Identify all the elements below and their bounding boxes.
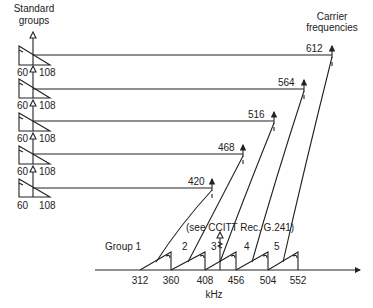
pilot-arrow-icon [30, 100, 36, 106]
group-label-1: Group 1 [105, 241, 142, 252]
pilot-arrow-icon [30, 133, 36, 139]
carrier-516: 516 [248, 109, 265, 120]
group-label-5: 5 [274, 241, 280, 252]
carrier-612: 612 [306, 43, 323, 54]
standard-group-row-2: 564 60 108 [17, 66, 304, 111]
pilot-arrow-icon [30, 166, 36, 172]
group-low-freq: 60 [17, 200, 29, 211]
group-label-4: 4 [244, 241, 250, 252]
tick-360: 360 [163, 275, 180, 286]
carrier-564: 564 [278, 77, 295, 88]
tick-504: 504 [260, 275, 277, 286]
group-high-freq: 108 [39, 200, 56, 211]
axis-unit-label: kHz [205, 289, 222, 300]
standard-groups-title-2: groups [19, 15, 50, 26]
diagram-svg: Standard groups Carrier frequencies 612 … [0, 0, 373, 308]
carrier-title-2: frequencies [306, 22, 358, 33]
group-low-freq: 60 [17, 100, 29, 111]
group-label-3: 3 [211, 241, 217, 252]
group-low-freq: 60 [17, 67, 29, 78]
group-low-freq: 60 [17, 166, 29, 177]
group-high-freq: 108 [39, 133, 56, 144]
tick-312: 312 [132, 275, 149, 286]
carrier-title-1: Carrier [317, 11, 348, 22]
group-low-freq: 60 [17, 133, 29, 144]
carrier-468: 468 [218, 142, 235, 153]
supergroup-formation-diagram: Standard groups Carrier frequencies 612 … [0, 0, 373, 308]
pilot-arrow-icon [30, 32, 36, 38]
standard-groups-title-1: Standard [14, 3, 55, 14]
tick-552: 552 [290, 275, 307, 286]
standard-group-row-1: 612 60 108 [17, 32, 332, 78]
tick-456: 456 [228, 275, 245, 286]
carrier-420: 420 [188, 176, 205, 187]
group-high-freq: 108 [39, 166, 56, 177]
tick-408: 408 [197, 275, 214, 286]
pilot-arrow-icon [30, 66, 36, 72]
group-label-2: 2 [182, 241, 188, 252]
reference-note: (see CCITT Rec. G.241) [186, 222, 294, 233]
group-high-freq: 108 [39, 67, 56, 78]
group-high-freq: 108 [39, 100, 56, 111]
